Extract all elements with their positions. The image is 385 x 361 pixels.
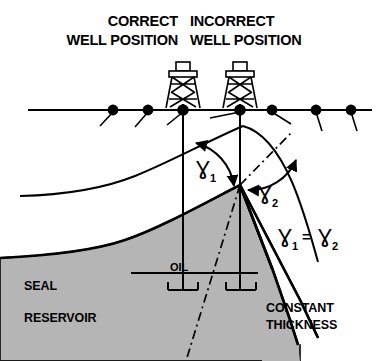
dip-symbol bbox=[346, 105, 357, 131]
label-seal: SEAL bbox=[24, 279, 57, 293]
angle-1-subscript: 1 bbox=[210, 172, 216, 184]
title-incorrect-line2: WELL POSITION bbox=[190, 32, 302, 48]
dip-dot bbox=[108, 105, 119, 116]
label-oil: OIL bbox=[170, 261, 189, 273]
dip-tick bbox=[316, 112, 322, 131]
equation-operator: = bbox=[302, 228, 311, 245]
dip-tick bbox=[100, 112, 113, 126]
dip-symbols-group bbox=[100, 104, 357, 131]
dip-symbol bbox=[100, 105, 118, 126]
derrick-incorrect bbox=[223, 62, 257, 108]
dip-symbol bbox=[267, 105, 291, 124]
angle-1-label-group: Ɣ 1 bbox=[196, 156, 216, 184]
derrick-platform bbox=[169, 71, 197, 77]
geology-cross-section-figure: CORRECT WELL POSITION INCORRECT WELL POS… bbox=[0, 0, 385, 361]
angle-2-subscript: 2 bbox=[272, 197, 278, 209]
label-constant-thickness-line1: CONSTANT bbox=[266, 301, 334, 315]
derrick-bracing bbox=[169, 77, 197, 107]
dip-tick bbox=[135, 112, 148, 127]
label-reservoir: RESERVOIR bbox=[24, 311, 97, 325]
angle-equation-group: Ɣ 1 = Ɣ 2 bbox=[278, 224, 338, 252]
derrick-platform bbox=[226, 71, 254, 77]
equation-lhs-gamma: Ɣ bbox=[278, 224, 292, 248]
dip-symbol bbox=[311, 105, 322, 131]
derrick-crown-block bbox=[176, 62, 190, 71]
equation-lhs-subscript: 1 bbox=[292, 240, 298, 252]
dip-tick bbox=[272, 112, 291, 124]
label-constant-thickness-line2: THICKNESS bbox=[266, 318, 337, 332]
angle-1-gamma-symbol: Ɣ bbox=[196, 156, 210, 180]
dip-dot bbox=[143, 105, 154, 116]
angle-2-gamma-symbol: Ɣ bbox=[258, 181, 272, 205]
equation-rhs-gamma: Ɣ bbox=[318, 224, 332, 248]
dip-tick bbox=[167, 112, 183, 125]
dip-symbol bbox=[135, 105, 153, 127]
title-correct-line1: CORRECT bbox=[108, 13, 179, 29]
title-incorrect-line1: INCORRECT bbox=[190, 13, 275, 29]
title-correct-line2: WELL POSITION bbox=[66, 32, 178, 48]
dip-tick bbox=[210, 112, 240, 118]
derrick-correct bbox=[166, 62, 200, 108]
dip-tick bbox=[351, 112, 357, 131]
derrick-bracing bbox=[226, 77, 254, 107]
angle-2-label-group: Ɣ 2 bbox=[258, 181, 278, 209]
cross-section-canvas: CORRECT WELL POSITION INCORRECT WELL POS… bbox=[0, 0, 385, 361]
derrick-crown-block bbox=[233, 62, 247, 71]
equation-rhs-subscript: 2 bbox=[332, 240, 338, 252]
